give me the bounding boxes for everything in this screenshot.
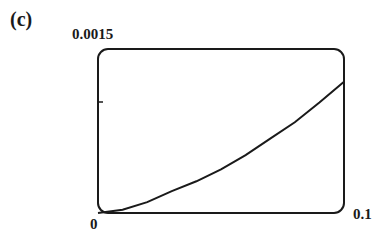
data-curve [98, 82, 344, 213]
plot-area [0, 0, 374, 236]
plot-frame [98, 49, 344, 213]
